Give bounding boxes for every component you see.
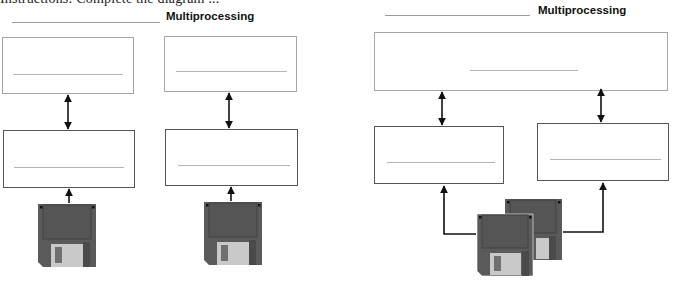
right-elbow-arrow-2 (563, 183, 603, 232)
floppy-disk-icon (38, 204, 98, 268)
right-elbow-arrow-1 (444, 186, 476, 234)
floppy-disk-front (477, 214, 533, 276)
connector-arrows (0, 0, 675, 283)
floppy-disk-icon (204, 202, 264, 266)
floppy-disks-stack-icon (476, 198, 566, 278)
